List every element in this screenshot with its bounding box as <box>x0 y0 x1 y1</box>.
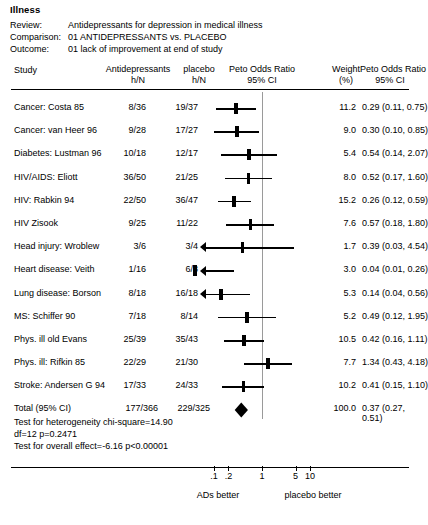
axis-tick-label: 1 <box>259 471 264 481</box>
table-row: Phys. ill old Evans25/3935/4310.50.42 (0… <box>0 334 420 347</box>
point-estimate-marker <box>235 126 238 137</box>
confidence-interval-marker <box>0 380 420 393</box>
point-estimate-marker <box>234 103 237 114</box>
confidence-interval-marker <box>0 172 420 185</box>
confidence-interval-marker <box>0 102 420 115</box>
heterogeneity-stat: Test for heterogeneity chi-square=14.90 <box>14 417 173 427</box>
arrow-left-icon <box>200 266 206 276</box>
summary-diamond-shape <box>235 403 248 418</box>
axis-caption-right: placebo better <box>284 490 341 500</box>
overall-effect-stat: Test for overall effect=-6.16 p<0.00001 <box>14 441 168 451</box>
point-estimate-marker <box>266 358 269 369</box>
confidence-interval-line <box>206 247 294 249</box>
axis-tick-label: .2 <box>225 471 233 481</box>
x-axis-line <box>11 467 409 468</box>
confidence-interval-marker <box>0 357 420 370</box>
table-row: MS: Schiffer 907/188/145.20.49 (0.12, 1.… <box>0 311 420 324</box>
axis-tick-label: .1 <box>210 471 218 481</box>
point-estimate-marker <box>247 173 250 184</box>
point-estimate-marker <box>242 335 245 346</box>
table-row: HIV: Rabkin 9422/5036/4715.20.26 (0.12, … <box>0 195 420 208</box>
point-estimate-marker <box>245 312 248 323</box>
confidence-interval-marker <box>0 241 420 254</box>
table-row: Diabetes: Lustman 9610/1812/175.40.54 (0… <box>0 148 420 161</box>
confidence-interval-line <box>206 294 250 296</box>
confidence-interval-marker <box>0 148 420 161</box>
confidence-interval-marker <box>0 288 420 301</box>
point-estimate-marker <box>193 265 196 276</box>
point-estimate-marker <box>219 289 222 300</box>
x-axis: .1.21510ADs betterplacebo better <box>0 466 420 525</box>
table-row: Stroke: Andersen G 9417/3324/3310.20.41 … <box>0 380 420 393</box>
confidence-interval-marker <box>0 195 420 208</box>
table-row: Phys. ill: Rifkin 8522/2921/307.71.34 (0… <box>0 357 420 370</box>
table-row: Head injury: Wroblew3/63/41.70.39 (0.03,… <box>0 241 420 254</box>
confidence-interval-marker <box>0 311 420 324</box>
axis-caption-left: ADs better <box>197 490 240 500</box>
table-row: HIV Zisook9/2511/227.60.57 (0.18, 1.80) <box>0 218 420 231</box>
arrow-left-icon <box>200 289 206 299</box>
point-estimate-marker <box>232 196 235 207</box>
confidence-interval-marker <box>0 264 420 277</box>
confidence-interval-line <box>206 270 234 272</box>
table-row: Heart disease: Veith1/166/83.00.04 (0.01… <box>0 264 420 277</box>
point-estimate-marker <box>241 242 244 253</box>
arrow-left-icon <box>200 242 206 252</box>
table-row: Lung disease: Borson8/1816/185.30.14 (0.… <box>0 288 420 301</box>
point-estimate-marker <box>242 381 245 392</box>
confidence-interval-marker <box>0 125 420 138</box>
axis-tick-label: 5 <box>293 471 298 481</box>
table-row: Cancer: Costa 858/3619/3711.20.29 (0.11,… <box>0 102 420 115</box>
confidence-interval-marker <box>0 334 420 347</box>
confidence-interval-marker <box>0 218 420 231</box>
degrees-of-freedom-stat: df=12 p=0.2471 <box>14 429 77 439</box>
table-row: Cancer: van Heer 969/2817/279.00.30 (0.1… <box>0 125 420 138</box>
table-row: HIV/AIDS: Eliott36/5021/258.00.52 (0.17,… <box>0 172 420 185</box>
point-estimate-marker <box>247 149 250 160</box>
total-row: Total (95% CI) 177/366 229/325 100.0 0.3… <box>0 403 420 417</box>
point-estimate-marker <box>249 219 252 230</box>
axis-tick-label: 10 <box>305 471 315 481</box>
